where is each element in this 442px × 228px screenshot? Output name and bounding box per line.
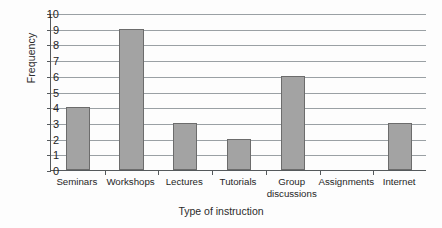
y-tick-label: 3 [35, 118, 59, 130]
gridline [51, 124, 426, 125]
x-tick-mark [266, 170, 267, 175]
gridline [51, 30, 426, 31]
x-axis-title: Type of instruction [0, 205, 442, 217]
x-tick-mark [105, 170, 106, 175]
y-tick-label: 1 [35, 149, 59, 161]
bar [66, 107, 90, 170]
bar [119, 29, 143, 170]
x-category-label: Internet [372, 176, 426, 188]
x-category-label: Group discussions [265, 176, 319, 199]
y-tick-label: 8 [35, 39, 59, 51]
x-tick-mark [320, 170, 321, 175]
bar [227, 139, 251, 170]
bar-chart: Frequency Type of instruction 0123456789… [0, 0, 442, 228]
bar [388, 123, 412, 170]
plot-area [50, 14, 426, 171]
x-tick-mark [158, 170, 159, 175]
y-tick-label: 2 [35, 134, 59, 146]
gridline [51, 61, 426, 62]
y-tick-label: 4 [35, 102, 59, 114]
x-category-label: Seminars [50, 176, 104, 188]
x-tick-mark [212, 170, 213, 175]
y-tick-label: 5 [35, 87, 59, 99]
gridline [51, 77, 426, 78]
x-category-label: Lectures [157, 176, 211, 188]
gridline [51, 108, 426, 109]
gridline [51, 45, 426, 46]
y-tick-label: 7 [35, 55, 59, 67]
bar [173, 123, 197, 170]
x-category-label: Workshops [104, 176, 158, 188]
x-tick-mark [373, 170, 374, 175]
y-tick-label: 9 [35, 24, 59, 36]
y-tick-label: 6 [35, 71, 59, 83]
gridline [51, 14, 426, 15]
gridline [51, 93, 426, 94]
bar [281, 76, 305, 170]
y-tick-label: 10 [35, 8, 59, 20]
x-category-label: Tutorials [211, 176, 265, 188]
x-category-label: Assignments [319, 176, 373, 188]
